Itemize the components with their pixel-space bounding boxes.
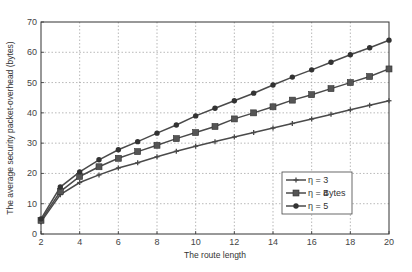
x-tick-label: 12 <box>229 237 239 247</box>
y-tick-label: 10 <box>27 199 37 209</box>
x-tick-label: 2 <box>38 237 43 247</box>
x-tick-label: 6 <box>116 237 121 247</box>
legend: η = 3η = 4η = 5 Bytes <box>282 172 352 214</box>
x-tick-label: 8 <box>154 237 159 247</box>
y-tick-label: 60 <box>27 47 37 57</box>
y-tick-label: 20 <box>27 168 37 178</box>
x-tick-label: 16 <box>307 237 317 247</box>
legend-unit-label: Bytes <box>323 188 346 198</box>
y-tick-label: 40 <box>27 108 37 118</box>
x-tick-label: 18 <box>345 237 355 247</box>
x-tick-label: 4 <box>77 237 82 247</box>
y-axis-label: The average security packet-overhead (by… <box>5 41 15 215</box>
y-tick-label: 50 <box>27 78 37 88</box>
legend-label: η = 3 <box>308 175 328 185</box>
y-tick-label: 0 <box>32 229 37 239</box>
line-chart: 2468101214161820 010203040506070 The rou… <box>0 0 412 272</box>
x-axis-ticks: 2468101214161820 <box>38 231 394 247</box>
legend-label: η = 5 <box>308 201 328 211</box>
x-axis-label: The route length <box>184 250 246 260</box>
x-tick-label: 20 <box>384 237 394 247</box>
x-tick-label: 10 <box>191 237 201 247</box>
y-tick-label: 30 <box>27 138 37 148</box>
y-tick-label: 70 <box>27 17 37 27</box>
x-tick-label: 14 <box>268 237 278 247</box>
